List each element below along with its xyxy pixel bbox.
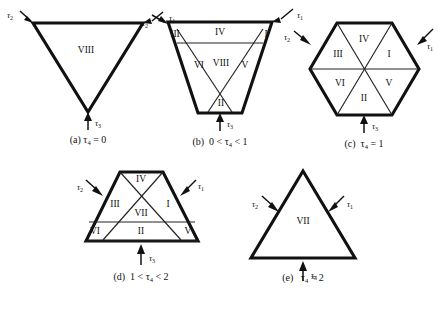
arrow-tau-1: τ1 <box>272 9 303 23</box>
tau-3-label: τ3 <box>95 118 101 129</box>
region-label-III: III <box>333 49 343 59</box>
caption-panel-a: (a) τ4 = 0 <box>70 134 107 146</box>
region-label-I: I <box>264 29 267 39</box>
region-label-III: III <box>170 29 180 39</box>
arrow-tau-3: τ3 <box>216 113 233 131</box>
region-label-VIII: VIII <box>78 45 94 55</box>
tau-3-subscript: 3 <box>230 124 233 130</box>
region-label-IV: IV <box>215 27 225 37</box>
region-label-VII: VII <box>134 208 147 218</box>
caption-d-rest: < 2 <box>155 271 168 282</box>
tau-2-label: τ2 <box>142 18 148 29</box>
arrow-tau-2: τ2 <box>77 180 103 196</box>
arrow-tau-2: τ2 <box>7 10 33 23</box>
region-label-II: II <box>218 98 224 108</box>
region-label-III: III <box>110 199 120 209</box>
arrow-tau-2: τ2 <box>252 196 279 212</box>
panel-b: III IV I VI VIII V II τ2 τ3 τ1 (b) <box>142 9 303 148</box>
region-label-VI: VI <box>194 60 204 70</box>
caption-panel-c: (c) τ4 = 1 <box>344 138 383 150</box>
caption-d-prefix: (d) <box>113 271 125 283</box>
caption-b-prefix: (b) <box>192 136 204 148</box>
figure-svg: VIII τ2 τ3 τ1 (a) τ4 = 0 <box>0 0 438 314</box>
tau-1-subscript: 1 <box>430 46 433 52</box>
figure-root: VIII τ2 τ3 τ1 (a) τ4 = 0 <box>0 0 438 314</box>
region-label-VI: VI <box>335 78 345 88</box>
panel-e-outline <box>251 171 355 258</box>
arrow-tau-1: τ1 <box>417 29 433 52</box>
region-label-VI: VI <box>90 226 100 236</box>
tau-1-label: τ1 <box>198 181 204 192</box>
tau-2-label: τ2 <box>284 32 290 43</box>
tau-1-label: τ1 <box>427 41 433 52</box>
caption-a-prefix: (a) <box>70 134 81 146</box>
arrow-tau-2-head <box>24 16 33 23</box>
region-label-I: I <box>387 49 390 59</box>
tau-2-label: τ2 <box>252 199 258 210</box>
caption-e-rest: = 2 <box>311 272 324 283</box>
tau-2-subscript: 2 <box>255 204 258 210</box>
tau-2-subscript: 2 <box>10 15 13 21</box>
tau-1-label: τ1 <box>297 10 303 21</box>
region-label-I: I <box>166 199 169 209</box>
arrow-tau-1: τ1 <box>180 180 204 196</box>
region-label-II: II <box>138 226 144 236</box>
caption-c-prefix: (c) <box>344 138 355 150</box>
tau-1-subscript: 1 <box>350 204 353 210</box>
panel-c: IV I III VI V II τ2 τ3 τ1 (c) τ4 = 1 <box>284 23 433 150</box>
caption-panel-d: (d) 1 < τ4 < 2 <box>113 271 168 283</box>
arrow-tau-3: τ3 <box>360 115 378 133</box>
region-label-VII: VII <box>296 216 309 226</box>
arrow-tau-2: τ2 <box>142 15 168 29</box>
tau-3-label: τ3 <box>149 253 155 264</box>
tau-2-label: τ2 <box>7 10 13 21</box>
caption-panel-e: (e) τ4 = 2 <box>282 272 324 284</box>
caption-b-rest: < 1 <box>234 136 247 147</box>
tau-2-subscript: 2 <box>80 187 83 193</box>
caption-e-prefix: (e) <box>282 272 293 284</box>
caption-a-rest: = 0 <box>93 134 106 145</box>
arrow-tau-1-line <box>281 9 293 19</box>
tau-3-label: τ3 <box>227 119 233 130</box>
region-label-V: V <box>386 78 393 88</box>
tau-2-subscript: 2 <box>287 37 290 43</box>
tau-2-label: τ2 <box>77 182 83 193</box>
caption-d-expr: 1 < τ <box>130 271 150 282</box>
caption-panel-b: (b) 0 < τ4 < 1 <box>192 136 247 148</box>
arrow-tau-2: τ2 <box>284 31 311 45</box>
arrow-tau-3: τ3 <box>137 244 155 265</box>
panel-e: VII τ2 τ3 τ1 (e) τ4 = 2 <box>251 171 355 284</box>
caption-c-rest: = 1 <box>370 138 383 149</box>
arrow-tau-3-head <box>299 261 307 271</box>
arrow-tau-1: τ1 <box>328 196 353 212</box>
panel-d: IV III VII I VI II V τ2 τ3 τ1 (d) <box>77 172 204 283</box>
tau-1-subscript: 1 <box>201 186 204 192</box>
caption-b-expr: 0 < τ <box>209 136 229 147</box>
panel-a-outline <box>33 23 143 112</box>
arrow-tau-3-head <box>84 112 92 121</box>
region-label-V: V <box>242 60 249 70</box>
tau-3-subscript: 3 <box>98 123 101 129</box>
arrow-tau-1-head <box>272 17 281 23</box>
tau-3-subscript: 3 <box>152 258 155 264</box>
arrow-tau-2-head <box>158 16 168 24</box>
arrow-tau-3: τ3 <box>84 112 101 130</box>
tau-1-label: τ1 <box>347 199 353 210</box>
region-label-VIII: VIII <box>213 58 229 68</box>
tau-2-subscript: 2 <box>145 23 148 29</box>
region-label-IV: IV <box>359 34 369 44</box>
tau-1-subscript: 1 <box>300 15 303 21</box>
tau-3-label: τ3 <box>372 121 378 132</box>
region-label-V: V <box>185 226 192 236</box>
tau-3-subscript: 3 <box>375 126 378 132</box>
panel-a: VIII τ2 τ3 τ1 (a) τ4 = 0 <box>7 10 175 146</box>
region-label-II: II <box>361 93 367 103</box>
region-label-IV: IV <box>136 174 146 184</box>
arrow-tau-3-head <box>137 244 145 254</box>
